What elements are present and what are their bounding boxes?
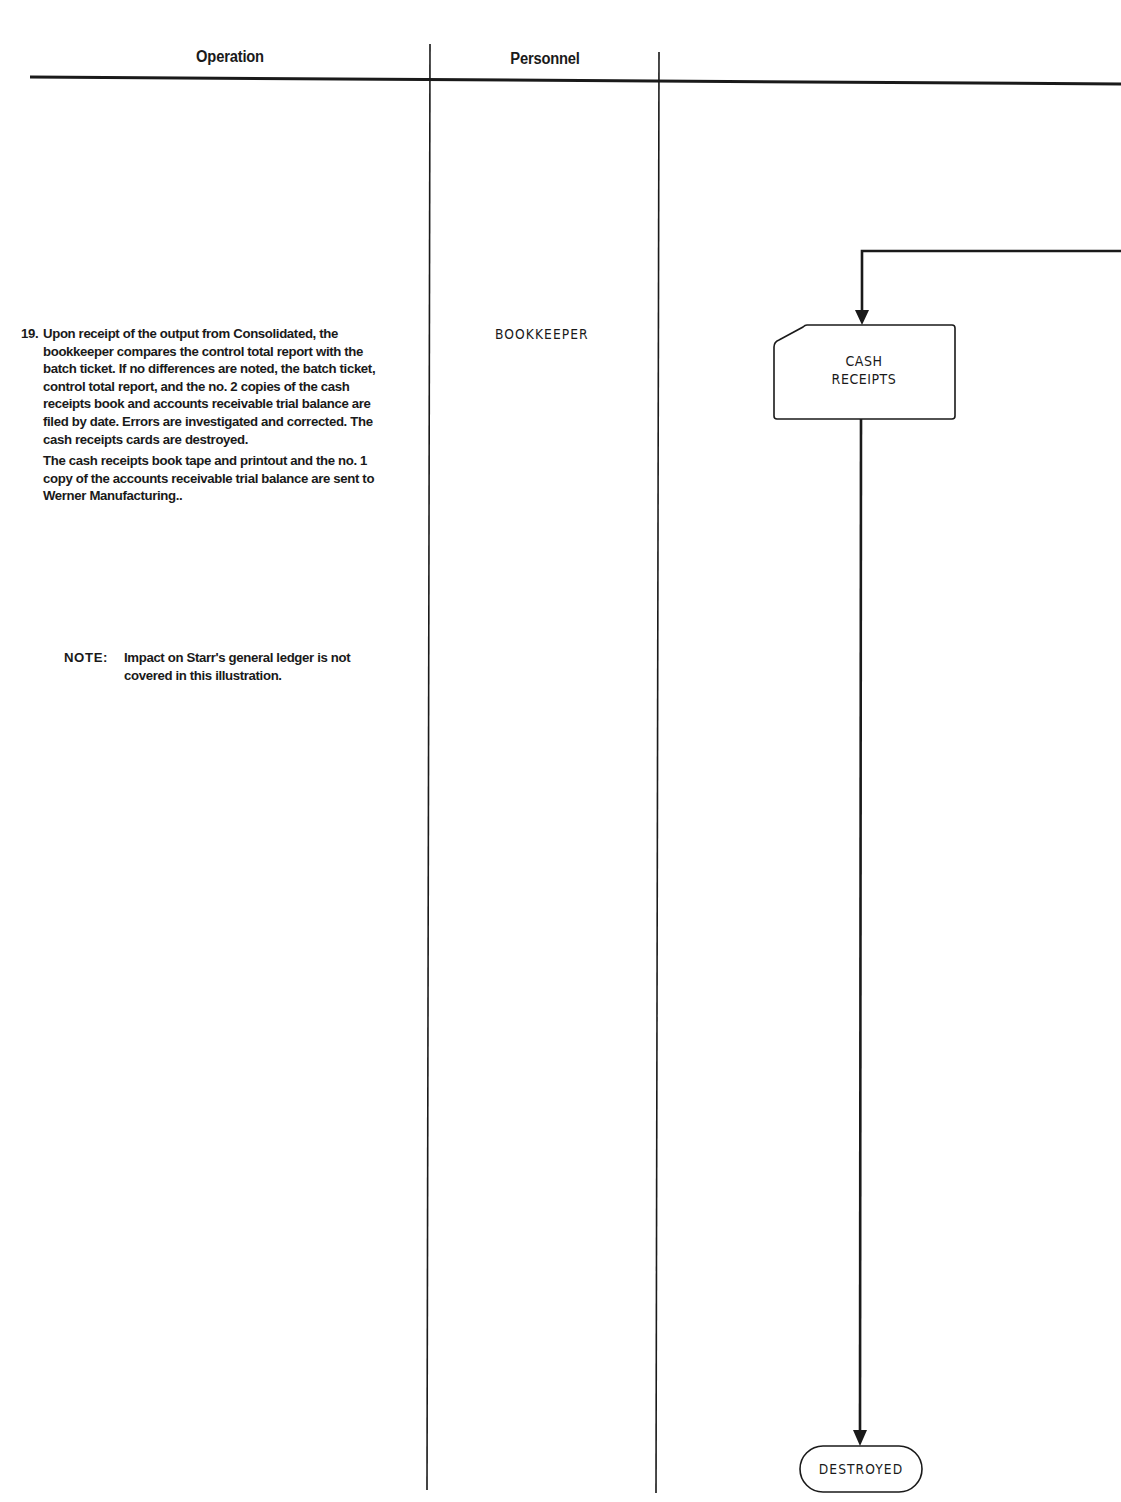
operation-paragraph: Upon receipt of the output from Consolid…	[43, 325, 383, 448]
step-number: 19.	[21, 325, 43, 448]
personnel-role: BOOKKEEPER	[495, 326, 589, 342]
arrowhead-down-icon	[855, 310, 869, 325]
column-header-personnel: Personnel	[453, 50, 637, 68]
incoming-flow-line	[862, 251, 1121, 312]
flowchart-canvas	[0, 0, 1121, 1502]
operation-note: NOTE: Impact on Starr's general ledger i…	[64, 649, 354, 684]
cash-receipts-label-line2: RECEIPTS	[784, 370, 944, 388]
header-rule	[30, 77, 1121, 84]
column-divider-operation-personnel	[427, 44, 430, 1490]
note-label: NOTE:	[64, 649, 124, 684]
note-text: Impact on Starr's general ledger is not …	[124, 649, 354, 684]
outgoing-flow-line	[860, 419, 861, 1432]
arrowhead-down-icon	[853, 1430, 867, 1446]
column-divider-personnel-flow	[656, 52, 659, 1493]
column-header-operation: Operation	[138, 48, 322, 66]
cash-receipts-node: CASH RECEIPTS	[784, 352, 944, 388]
operation-step: 19. Upon receipt of the output from Cons…	[21, 325, 401, 505]
destroyed-node-label: DESTROYED	[807, 1461, 914, 1477]
operation-paragraph: The cash receipts book tape and printout…	[43, 452, 383, 505]
cash-receipts-label-line1: CASH	[784, 352, 944, 370]
